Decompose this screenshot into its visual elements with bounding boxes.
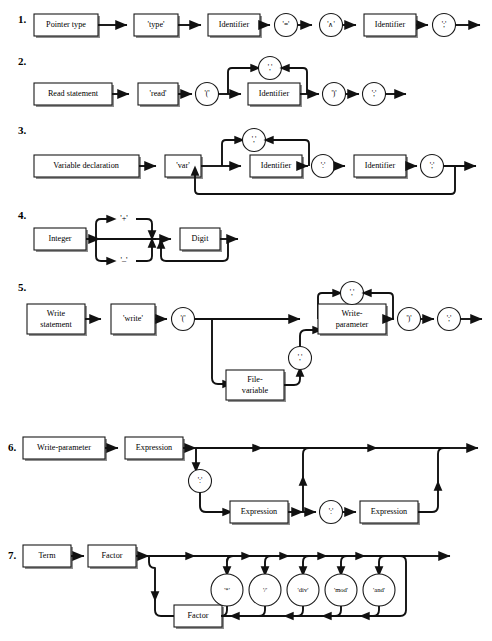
node-label: Read statement	[48, 89, 99, 98]
diagram-number-6: 6.	[8, 441, 16, 453]
diagram-4-integer: Integer '+' '–' Digit	[34, 214, 238, 265]
op-rejoin-3	[297, 606, 303, 616]
op-rejoin-2	[259, 606, 265, 616]
node-label: 'var'	[176, 161, 190, 170]
node-label: '*'	[224, 586, 230, 593]
branch-plus-in	[96, 219, 112, 239]
branch-minus-in	[96, 239, 112, 261]
node-label: Write	[47, 309, 66, 318]
node-label: '='	[283, 20, 290, 29]
node-label: Identifier	[219, 20, 250, 29]
op-rejoin-4	[335, 606, 341, 616]
colon-to-expression	[200, 493, 228, 513]
node-label: '/'	[263, 586, 267, 593]
diagram-canvas: Pointer type 'type' Identifier '=' '∧' I…	[0, 0, 492, 641]
diagram-5-write-statement: Write statement 'write' '(' File- variab…	[27, 282, 482, 403]
node-label: Expression	[136, 443, 172, 452]
node-label: Identifier	[259, 89, 290, 98]
railroad-diagram-sheet: Pointer type 'type' Identifier '=' '∧' I…	[0, 0, 492, 641]
node-label: Expression	[371, 507, 407, 516]
node-label: ','	[350, 288, 355, 297]
node-label: 'div'	[298, 586, 309, 593]
node-label: Write-parameter	[37, 443, 91, 452]
diagram-number-2: 2.	[18, 55, 26, 67]
node-label: Identifier	[375, 20, 406, 29]
node-label: ')'	[406, 314, 412, 323]
node-label: Factor	[188, 611, 209, 620]
comma-to-write-parameter	[300, 330, 318, 347]
node-label: File-	[247, 375, 263, 384]
node-label: ';'	[442, 20, 447, 29]
op-down-3	[303, 556, 309, 572]
node-label: Expression	[241, 507, 277, 516]
loop-outer-left	[149, 556, 174, 616]
node-label: Write-	[341, 309, 362, 318]
rejoin-top-2	[418, 448, 444, 512]
diagram-number-1: 1.	[18, 13, 26, 25]
terminal-minus: '–'	[120, 256, 128, 265]
node-label: '('	[204, 89, 210, 98]
node-label: 'type'	[147, 20, 165, 29]
node-label: '∧'	[327, 20, 335, 29]
node-label: 'and'	[373, 586, 385, 593]
node-label: ','	[252, 135, 257, 144]
node-label: ':'	[329, 507, 334, 516]
node-label: ';'	[447, 314, 452, 323]
diagram-6-write-parameter: Write-parameter Expression ':' Expressio…	[23, 437, 478, 525]
op-down-5	[379, 556, 385, 572]
loop-outer-right	[400, 556, 406, 616]
loop-left-riser	[222, 140, 240, 166]
diagram-3-variable-declaration: Variable declaration 'var' Identifier ',…	[34, 129, 476, 195]
node-label: ','	[268, 63, 273, 72]
op-down-2	[265, 556, 271, 572]
op-down-4	[341, 556, 347, 572]
op-down-1	[227, 556, 233, 572]
node-label: Identifier	[261, 161, 292, 170]
node-label: statement	[40, 320, 72, 329]
node-label: Variable declaration	[53, 161, 119, 170]
node-label: Factor	[102, 551, 123, 560]
diagram-7-term: Term Factor Factor '*' '/'	[23, 545, 450, 629]
node-label: Digit	[192, 234, 210, 243]
node-label: 'mod'	[334, 586, 348, 593]
node-label: 'read'	[149, 89, 167, 98]
node-label: ':'	[198, 476, 203, 485]
diagram-2-read-statement: Read statement 'read' '(' Identifier ','…	[34, 57, 406, 108]
node-label: Term	[38, 551, 56, 560]
node-label: 'write'	[123, 314, 143, 323]
node-label: '('	[180, 314, 186, 323]
node-label: variable	[242, 386, 269, 395]
node-label: parameter	[336, 320, 369, 329]
file-variable-branch-out	[284, 371, 300, 385]
node-label: Pointer type	[46, 20, 86, 29]
node-label: ':'	[321, 161, 326, 170]
node-label: Integer	[48, 234, 71, 243]
branch-plus-out	[136, 219, 152, 236]
node-label: ')'	[331, 89, 337, 98]
node-label: ';'	[430, 161, 435, 170]
node-label: ','	[298, 353, 303, 362]
node-label: ';'	[372, 89, 377, 98]
terminal-plus: '+'	[120, 214, 128, 223]
diagram-number-3: 3.	[18, 124, 26, 136]
node-label: Identifier	[365, 161, 396, 170]
branch-minus-out	[136, 242, 152, 261]
diagram-1-pointer-type: Pointer type 'type' Identifier '=' '∧' I…	[34, 14, 480, 39]
op-rejoin-5	[373, 606, 379, 616]
diagram-number-7: 7.	[8, 549, 16, 561]
diagram-number-4: 4.	[18, 209, 26, 221]
diagram-number-5: 5.	[18, 281, 26, 293]
